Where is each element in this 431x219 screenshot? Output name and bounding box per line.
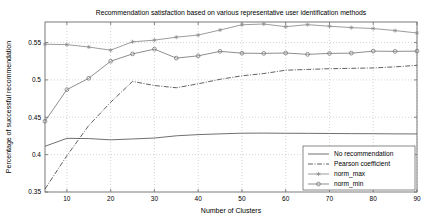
x-axis-title: Number of Clusters <box>201 207 262 214</box>
x-tick-label-1: 20 <box>107 195 115 202</box>
recommendation-satisfaction-line-chart: Recommendation satisfaction based on var… <box>0 0 431 219</box>
x-tick-label-8: 90 <box>413 195 421 202</box>
x-tick-label-5: 60 <box>282 195 290 202</box>
x-tick-label-2: 30 <box>151 195 159 202</box>
y-tick-label-4: 0.55 <box>28 39 41 46</box>
legend-item-label: norm_max <box>334 170 366 178</box>
chart-legend[interactable]: No recommendationPearson coefficientnorm… <box>303 146 415 190</box>
legend-item-label: norm_min <box>334 180 364 188</box>
x-tick-label-7: 80 <box>370 195 378 202</box>
chart-figure: Recommendation satisfaction based on var… <box>0 0 431 219</box>
legend-item-label: Pearson coefficient <box>334 160 390 167</box>
x-tick-label-3: 40 <box>195 195 203 202</box>
y-tick-label-1: 0.4 <box>32 151 41 158</box>
x-tick-label-0: 10 <box>63 195 71 202</box>
legend-item-label: No recommendation <box>334 150 394 157</box>
y-tick-label-2: 0.45 <box>28 114 41 121</box>
chart-title: Recommendation satisfaction based on var… <box>96 9 367 17</box>
x-tick-label-4: 50 <box>238 195 246 202</box>
x-tick-label-6: 70 <box>326 195 334 202</box>
y-axis-title: Percentage of successful recommendation <box>5 41 13 173</box>
y-tick-label-3: 0.5 <box>32 76 41 83</box>
y-tick-label-0: 0.35 <box>28 188 41 195</box>
